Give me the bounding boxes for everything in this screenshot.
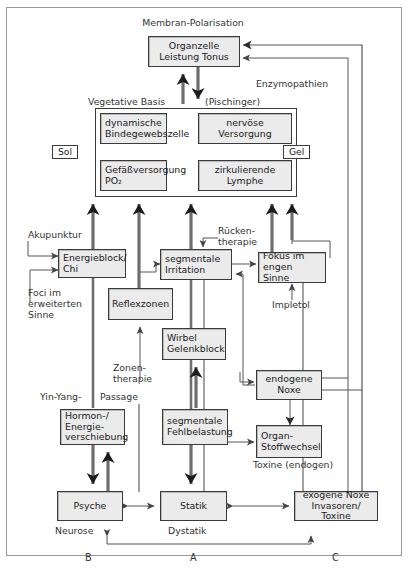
label-enzymopathien: Enzymopathien — [256, 79, 328, 90]
label-dystatik: Dystatik — [168, 525, 206, 536]
tag-sol: Sol — [52, 145, 78, 159]
box-gefaessversorgung: Gefäßversorgung PO₂ — [100, 160, 167, 191]
label-impletol: Impletol — [272, 300, 310, 311]
tag-gel: Gel — [283, 145, 310, 159]
box-segmentale-fehlbelastung: segmentale Fehlbelastung — [162, 409, 228, 445]
box-energieblock-chi: Energieblock/ Chi — [58, 249, 126, 278]
label-passage: Passage — [100, 392, 138, 403]
label-akupunktur: Akupunktur — [28, 230, 82, 241]
label-membran-polarisation: Membran-Polarisation — [118, 18, 268, 29]
label-rueckentherapie: Rücken- therapie — [218, 226, 257, 248]
box-dynamische-bindegewebszelle: dynamische Bindegewebszelle — [100, 113, 167, 144]
label-letter-c: C — [332, 552, 339, 563]
box-organzelle: Organzelle Leistung Tonus — [148, 36, 240, 67]
box-reflexzonen: Reflexzonen — [108, 288, 173, 320]
label-yin-yang: Yin-Yang- — [40, 392, 81, 403]
box-wirbel-gelenkblock: Wirbel Gelenkblock — [162, 328, 226, 360]
box-statik: Statik — [160, 491, 227, 521]
box-zirkulierende-lymphe: zirkulierende Lymphe — [198, 160, 292, 191]
box-exogene-noxe: exogene Noxe Invasoren/ Toxine — [294, 491, 378, 521]
label-vegetative-basis: Vegetative Basis — [88, 97, 165, 108]
box-hormon-energieverschiebung: Hormon-/ Energie- verschiebung — [60, 409, 125, 445]
box-nervoese-versorgung: nervöse Versorgung — [198, 113, 292, 144]
label-pischinger: (Pischinger) — [205, 97, 260, 108]
label-zonentherapie: Zonen- therapie — [113, 363, 152, 385]
box-segmentale-irritation: segmentale Irritation — [160, 249, 232, 280]
label-neurose: Neurose — [55, 525, 93, 536]
label-toxine-endogen: Toxine (endogen) — [253, 460, 333, 471]
box-fokus-im-engen-sinne: Fokus im engen Sinne — [258, 252, 326, 283]
label-letter-b: B — [85, 552, 92, 563]
box-endogene-noxe: endogene Noxe — [256, 370, 322, 400]
label-foci: Foci im erweiterten Sinne — [28, 288, 82, 320]
diagram-page: Membran-Polarisation Organzelle Leistung… — [0, 0, 410, 578]
box-psyche: Psyche — [57, 491, 123, 521]
label-letter-a: A — [190, 552, 197, 563]
box-organ-stoffwechsel: Organ- Stoffwechsel — [256, 425, 322, 458]
